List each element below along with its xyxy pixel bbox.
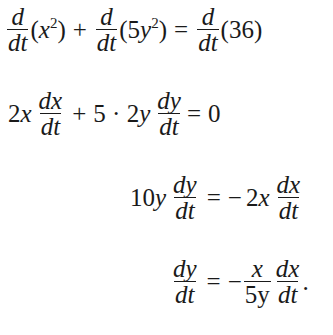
term-5y-squared: (5y2) xyxy=(119,16,167,44)
numerator: x xyxy=(251,256,264,281)
variable: y xyxy=(155,184,166,212)
exponent: 2 xyxy=(151,15,159,31)
fraction-dy-dt: dy dt xyxy=(172,256,198,307)
numerator: dy xyxy=(156,88,182,113)
fraction-x-5y: x 5y xyxy=(244,256,271,307)
plus-operator: + xyxy=(73,16,87,44)
numerator: dy xyxy=(172,172,198,197)
fraction-dx-dt: dx dt xyxy=(276,172,302,223)
variable: y xyxy=(140,16,151,43)
denominator: dt xyxy=(174,197,195,223)
denominator: dt xyxy=(158,113,179,139)
fraction-d-dt: d dt xyxy=(197,4,218,55)
equation-line-1: d dt (x2) + d dt (5y2) = d dt (36) xyxy=(5,4,262,55)
coefficient: 2 xyxy=(8,100,21,128)
equation-line-2: 2x dx dt + 5 · 2y dy dt = 0 xyxy=(8,88,220,139)
denominator: dt xyxy=(278,197,299,223)
plus-operator: + xyxy=(72,100,86,128)
fraction-d-dt: d dt xyxy=(96,4,117,55)
numerator: dy xyxy=(172,256,198,281)
fraction-dy-dt: dy dt xyxy=(172,172,198,223)
period: . xyxy=(302,268,308,296)
equals-operator: = xyxy=(207,184,221,212)
numerator: d xyxy=(99,4,114,29)
denominator: dt xyxy=(197,29,218,55)
numerator: dx xyxy=(276,172,302,197)
coefficient: 5 · 2 xyxy=(93,100,139,128)
coefficient: 2 xyxy=(246,184,259,212)
constant-36: (36) xyxy=(221,16,263,44)
numerator: dx xyxy=(38,88,64,113)
denominator: dt xyxy=(174,281,195,307)
fraction-dx-dt: dx dt xyxy=(38,88,64,139)
denominator: dt xyxy=(277,281,298,307)
equation-line-4: dy dt = − x 5y dx dt . xyxy=(170,256,309,307)
equals-operator: = xyxy=(187,100,201,128)
minus-operator: − xyxy=(228,184,242,212)
denominator: dt xyxy=(96,29,117,55)
denominator: 5y xyxy=(244,281,271,307)
equation-line-3: 10y dy dt = − 2x dx dt xyxy=(130,172,303,223)
numerator: d xyxy=(10,4,25,29)
minus-operator: − xyxy=(228,268,242,296)
paren: ) xyxy=(57,16,65,43)
equals-operator: = xyxy=(174,16,188,44)
variable: y xyxy=(139,100,150,128)
term-x-squared: (x2) xyxy=(30,16,65,44)
fraction-dy-dt: dy dt xyxy=(156,88,182,139)
paren: (5 xyxy=(119,16,140,43)
fraction-d-dt: d dt xyxy=(7,4,28,55)
coefficient: 10 xyxy=(130,184,155,212)
equals-operator: = xyxy=(207,268,221,296)
variable: x xyxy=(258,184,269,212)
paren: ) xyxy=(159,16,167,43)
denominator: dt xyxy=(40,113,61,139)
numerator: d xyxy=(201,4,216,29)
variable: x xyxy=(21,100,32,128)
paren: ( xyxy=(30,16,38,43)
rhs-zero: 0 xyxy=(208,100,221,128)
fraction-dx-dt: dx dt xyxy=(275,256,301,307)
variable: x xyxy=(39,16,50,43)
numerator: dx xyxy=(275,256,301,281)
denominator: dt xyxy=(7,29,28,55)
